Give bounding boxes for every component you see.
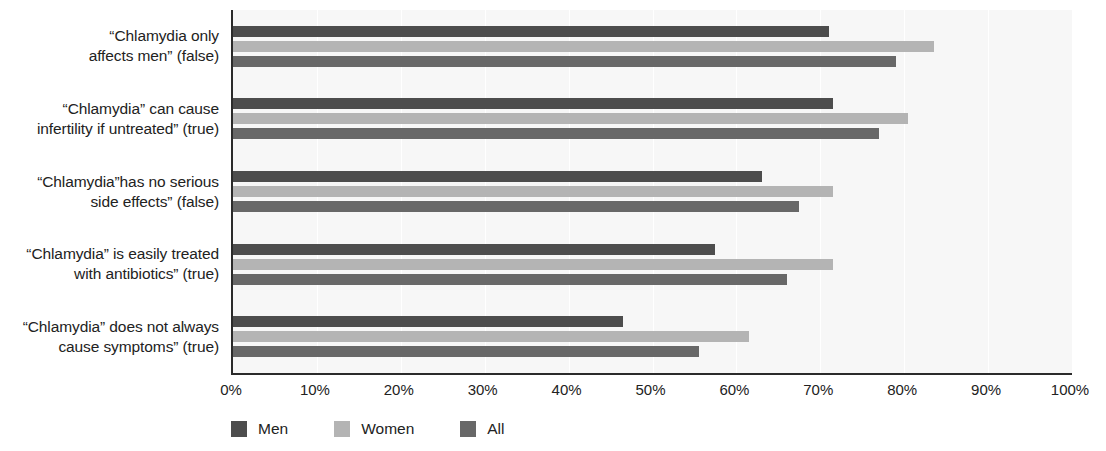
x-axis-tick-label: 20% — [384, 380, 414, 400]
x-axis-tick-label: 50% — [635, 380, 665, 400]
x-axis-tick-label: 10% — [300, 380, 330, 400]
x-axis-tick-label: 0% — [220, 380, 242, 400]
x-axis-tick-label: 80% — [887, 380, 917, 400]
bar-all — [233, 274, 787, 285]
bar-all — [233, 128, 879, 139]
bar-men — [233, 316, 623, 327]
category-label: “Chlamydia onlyaffects men” (false) — [0, 26, 219, 66]
bar-track — [233, 171, 1072, 182]
category-label-line: affects men” (false) — [0, 46, 219, 66]
bar-all — [233, 346, 699, 357]
x-axis-tick-label: 40% — [552, 380, 582, 400]
bar-men — [233, 26, 829, 37]
bar-track — [233, 41, 1072, 52]
x-axis-tick-labels: 0%10%20%30%40%50%60%70%80%90%100% — [231, 380, 1070, 402]
x-axis-tick-label: 100% — [1051, 380, 1089, 400]
bar-track — [233, 26, 1072, 37]
bar-track — [233, 113, 1072, 124]
bar-track — [233, 128, 1072, 139]
bar-women — [233, 331, 749, 342]
x-axis-tick-label: 70% — [803, 380, 833, 400]
legend-label: Women — [361, 420, 414, 438]
bar-track — [233, 259, 1072, 270]
bar-group — [233, 155, 1072, 228]
legend-swatch-icon — [460, 421, 476, 437]
legend-label: Men — [258, 420, 288, 438]
bar-women — [233, 259, 833, 270]
bar-all — [233, 56, 896, 67]
x-axis-tick-label: 30% — [468, 380, 498, 400]
category-label-line: cause symptoms” (true) — [0, 337, 219, 357]
category-label-line: “Chlamydia”has no serious — [0, 172, 219, 192]
x-axis-tick-label: 90% — [971, 380, 1001, 400]
category-label-line: “Chlamydia” does not always — [0, 317, 219, 337]
bar-track — [233, 274, 1072, 285]
legend-item-all[interactable]: All — [460, 420, 504, 438]
gridline — [1072, 10, 1073, 373]
bar-all — [233, 201, 799, 212]
category-label-line: infertility if untreated” (true) — [0, 119, 219, 139]
legend-item-men[interactable]: Men — [231, 420, 288, 438]
bar-chart: “Chlamydia onlyaffects men” (false)“Chla… — [0, 0, 1106, 451]
bar-track — [233, 346, 1072, 357]
bar-track — [233, 186, 1072, 197]
bar-group — [233, 228, 1072, 301]
legend-item-women[interactable]: Women — [334, 420, 414, 438]
category-label: “Chlamydia” does not alwayscause symptom… — [0, 317, 219, 357]
category-label-line: “Chlamydia only — [0, 26, 219, 46]
bar-track — [233, 98, 1072, 109]
category-label-line: with antibiotics” (true) — [0, 264, 219, 284]
legend-swatch-icon — [231, 421, 247, 437]
bar-women — [233, 41, 934, 52]
category-label-line: “Chlamydia” can cause — [0, 99, 219, 119]
bar-track — [233, 331, 1072, 342]
category-axis-labels: “Chlamydia onlyaffects men” (false)“Chla… — [0, 10, 219, 373]
bar-group — [233, 300, 1072, 373]
bar-men — [233, 171, 762, 182]
category-label: “Chlamydia” can causeinfertility if untr… — [0, 99, 219, 139]
bar-rows — [233, 10, 1072, 373]
bar-men — [233, 244, 715, 255]
category-label-line: side effects” (false) — [0, 192, 219, 212]
bar-track — [233, 244, 1072, 255]
category-label-line: “Chlamydia” is easily treated — [0, 244, 219, 264]
bar-track — [233, 56, 1072, 67]
plot-area — [231, 10, 1072, 375]
category-label: “Chlamydia” is easily treatedwith antibi… — [0, 244, 219, 284]
legend: MenWomenAll — [231, 420, 551, 438]
bar-group — [233, 10, 1072, 83]
bar-group — [233, 83, 1072, 156]
bar-track — [233, 201, 1072, 212]
category-label: “Chlamydia”has no seriousside effects” (… — [0, 172, 219, 212]
bar-track — [233, 316, 1072, 327]
legend-label: All — [487, 420, 504, 438]
bar-men — [233, 98, 833, 109]
legend-swatch-icon — [334, 421, 350, 437]
bar-women — [233, 186, 833, 197]
bar-women — [233, 113, 908, 124]
x-axis-tick-label: 60% — [719, 380, 749, 400]
